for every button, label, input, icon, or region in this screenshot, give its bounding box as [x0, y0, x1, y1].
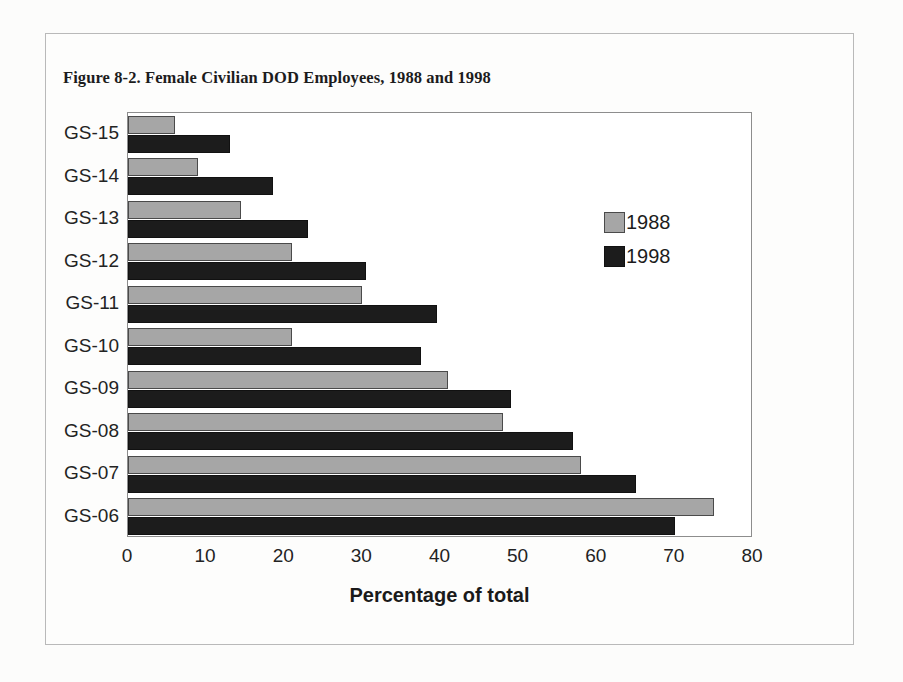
legend-label-1998: 1998: [626, 246, 671, 266]
bar-gs-13-1998: [128, 220, 308, 238]
x-axis-tick-labels: 01020304050607080: [127, 545, 752, 573]
plot-area: [127, 112, 752, 537]
y-tick-gs-12: GS-12: [64, 250, 119, 272]
bar-gs-07-1998: [128, 475, 636, 493]
y-tick-gs-10: GS-10: [64, 335, 119, 357]
bar-group-gs-11: [128, 283, 751, 326]
x-axis-title: Percentage of total: [127, 584, 752, 607]
x-tick-70: 70: [663, 545, 684, 567]
bar-gs-08-1988: [128, 413, 503, 431]
bar-gs-15-1998: [128, 135, 230, 153]
legend-item-1998: 1998: [604, 239, 734, 273]
x-tick-40: 40: [429, 545, 450, 567]
x-tick-20: 20: [273, 545, 294, 567]
x-tick-80: 80: [741, 545, 762, 567]
bar-group-gs-14: [128, 156, 751, 199]
bar-gs-15-1988: [128, 116, 175, 134]
bar-gs-09-1998: [128, 390, 511, 408]
chart-legend: 19881998: [604, 205, 734, 273]
y-tick-gs-09: GS-09: [64, 377, 119, 399]
y-axis-labels: GS-15GS-14GS-13GS-12GS-11GS-10GS-09GS-08…: [45, 112, 119, 537]
y-tick-gs-13: GS-13: [64, 207, 119, 229]
bar-group-gs-08: [128, 411, 751, 454]
bar-group-gs-15: [128, 113, 751, 156]
x-tick-30: 30: [351, 545, 372, 567]
legend-swatch-1998: [604, 246, 625, 267]
bar-group-gs-09: [128, 368, 751, 411]
bar-gs-12-1988: [128, 243, 292, 261]
y-tick-gs-15: GS-15: [64, 122, 119, 144]
bar-gs-14-1988: [128, 158, 198, 176]
bar-gs-07-1988: [128, 456, 581, 474]
bar-gs-14-1998: [128, 177, 273, 195]
y-tick-gs-14: GS-14: [64, 165, 119, 187]
y-tick-gs-08: GS-08: [64, 420, 119, 442]
bar-gs-06-1988: [128, 498, 714, 516]
y-tick-gs-06: GS-06: [64, 505, 119, 527]
figure-page: Figure 8-2. Female Civilian DOD Employee…: [0, 0, 903, 682]
bar-gs-12-1998: [128, 262, 366, 280]
y-tick-gs-11: GS-11: [65, 292, 119, 314]
legend-swatch-1988: [604, 212, 625, 233]
bar-gs-06-1998: [128, 517, 675, 535]
x-tick-0: 0: [122, 545, 133, 567]
bar-gs-09-1988: [128, 371, 448, 389]
legend-item-1988: 1988: [604, 205, 734, 239]
y-tick-gs-07: GS-07: [64, 462, 119, 484]
legend-label-1988: 1988: [626, 212, 671, 232]
x-tick-60: 60: [585, 545, 606, 567]
bar-gs-13-1988: [128, 201, 241, 219]
bar-group-gs-07: [128, 453, 751, 496]
bar-group-gs-10: [128, 326, 751, 369]
bar-gs-11-1988: [128, 286, 362, 304]
bars-layer: [128, 113, 751, 536]
bar-gs-11-1998: [128, 305, 437, 323]
figure-title: Figure 8-2. Female Civilian DOD Employee…: [63, 68, 491, 88]
bar-group-gs-06: [128, 496, 751, 539]
bar-gs-08-1998: [128, 432, 573, 450]
bar-gs-10-1998: [128, 347, 421, 365]
bar-gs-10-1988: [128, 328, 292, 346]
x-tick-50: 50: [507, 545, 528, 567]
x-tick-10: 10: [195, 545, 216, 567]
